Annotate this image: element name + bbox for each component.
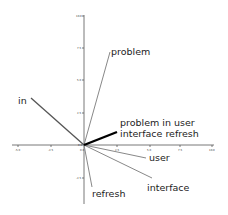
y-ticks: 10.0 7.5 5.0 2.5 0.0 -2.5 — [76, 15, 84, 180]
y-tick-label: 10.0 — [76, 15, 82, 18]
x-ticks: -5.0 -2.5 0.0 2.5 5.0 7.5 10.0 — [15, 145, 215, 152]
label-combined-line1: problem in user — [120, 117, 195, 128]
y-tick-label: 0.0 — [78, 144, 82, 147]
y-tick-label: 2.5 — [77, 112, 81, 115]
label-problem: problem — [111, 46, 150, 57]
vector-chart: -5.0 -2.5 0.0 2.5 5.0 7.5 10.0 10.0 7.5 … — [0, 0, 228, 215]
label-in: in — [18, 95, 27, 106]
label-interface: interface — [147, 182, 190, 193]
label-refresh: refresh — [92, 188, 125, 199]
vector-in — [31, 98, 84, 145]
vector-combined — [84, 132, 117, 145]
y-tick-label: 7.5 — [77, 47, 81, 50]
vector-refresh — [84, 145, 92, 187]
x-tick-label: 10.0 — [209, 149, 215, 152]
y-tick-label: -2.5 — [76, 177, 81, 180]
label-combined-line2: interface refresh — [120, 128, 199, 139]
x-tick-label: 7.5 — [178, 149, 182, 152]
x-tick-label: -5.0 — [15, 149, 20, 152]
vector-problem — [84, 52, 110, 145]
y-tick-label: 5.0 — [77, 79, 81, 82]
x-tick-label: 0.0 — [80, 149, 84, 152]
x-tick-label: -2.5 — [48, 149, 53, 152]
label-user: user — [149, 152, 170, 163]
vector-user — [84, 145, 146, 158]
